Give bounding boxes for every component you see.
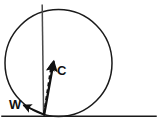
vertical-line (42, 5, 43, 116)
geometry-figure: C W (0, 0, 158, 128)
vector-w-arrow (24, 106, 44, 115)
label-c: C (57, 64, 66, 77)
figure-canvas (0, 0, 158, 128)
vector-c-arrow (44, 62, 53, 115)
label-w: W (9, 98, 21, 111)
